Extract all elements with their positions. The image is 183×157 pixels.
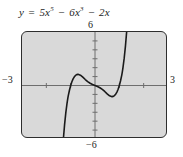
term-3-coefficient: 2x — [99, 6, 110, 18]
term-2-exponent: 3 — [80, 5, 84, 13]
axis-label-x-min: −3 — [2, 74, 13, 85]
equation-equals: = — [27, 6, 36, 18]
equation-term-1: 5x5 — [39, 6, 54, 18]
plot-svg — [22, 32, 167, 138]
graph-viewing-window — [21, 31, 167, 138]
term-2-coefficient: 6x — [69, 6, 80, 18]
figure-container: y = 5x5 − 6x3 − 2x 6 −6 −3 3 — [0, 0, 183, 157]
axis-label-x-max: 3 — [170, 74, 175, 85]
axis-label-y-max: 6 — [88, 19, 93, 30]
term-1-coefficient: 5x — [39, 6, 50, 18]
term-1-exponent: 5 — [50, 5, 54, 13]
equation-term-2: 6x3 — [69, 6, 84, 18]
equation-lhs: y — [19, 6, 24, 18]
axis-label-y-min: −6 — [86, 139, 97, 150]
equation-term-3: 2x — [99, 6, 110, 18]
equation-operator-2: − — [57, 6, 66, 18]
equation-operator-3: − — [87, 6, 96, 18]
function-equation: y = 5x5 − 6x3 − 2x — [19, 6, 110, 18]
